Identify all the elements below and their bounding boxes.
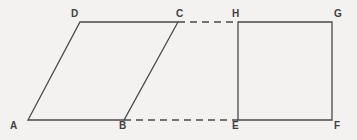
figure-drawing bbox=[0, 0, 357, 140]
vertex-label-h: H bbox=[232, 9, 239, 19]
vertex-label-f: F bbox=[334, 121, 340, 131]
vertex-label-b: B bbox=[119, 121, 126, 131]
rectangle-efgh bbox=[238, 22, 332, 120]
geometry-figure: A B C D E F G H bbox=[0, 0, 357, 140]
vertex-label-c: C bbox=[176, 9, 183, 19]
vertex-label-g: G bbox=[334, 9, 342, 19]
parallelogram-abcd bbox=[28, 22, 178, 120]
vertex-label-d: D bbox=[71, 9, 78, 19]
vertex-label-a: A bbox=[10, 121, 17, 131]
vertex-label-e: E bbox=[232, 121, 239, 131]
